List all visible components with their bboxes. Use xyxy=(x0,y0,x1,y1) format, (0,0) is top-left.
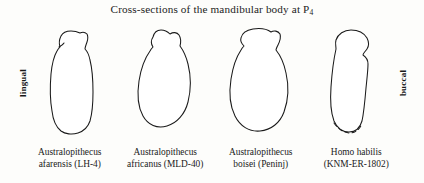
caption-habilis: Homo habilis (KNM-ER-1802) xyxy=(309,146,405,171)
specimen-boisei xyxy=(215,24,303,144)
caption-species-afarensis: afarensis (LH-4) xyxy=(22,158,118,170)
caption-species-africanus: africanus (MLD-40) xyxy=(118,158,214,170)
orientation-label-lingual: lingual xyxy=(18,56,28,110)
caption-species-boisei: boisei (Peninj) xyxy=(213,158,309,170)
cross-section-drawing-afarensis xyxy=(30,24,118,144)
caption-genus-boisei: Australopithecus xyxy=(213,146,309,158)
specimen-habilis xyxy=(308,24,396,144)
caption-genus-africanus: Australopithecus xyxy=(118,146,214,158)
cross-section-drawing-habilis xyxy=(308,24,396,144)
figure-title-text: Cross-sections of the mandibular body at… xyxy=(111,3,310,15)
caption-boisei: Australopithecus boisei (Peninj) xyxy=(213,146,309,171)
figure-title-subscript: 4 xyxy=(310,8,314,17)
specimen-row xyxy=(30,24,396,144)
caption-afarensis: Australopithecus afarensis (LH-4) xyxy=(22,146,118,171)
cross-section-drawing-boisei xyxy=(215,24,303,144)
caption-row: Australopithecus afarensis (LH-4) Austra… xyxy=(22,146,404,171)
cross-section-drawing-africanus xyxy=(123,24,211,144)
specimen-africanus xyxy=(123,24,211,144)
caption-genus-habilis: Homo habilis xyxy=(309,146,405,158)
caption-species-habilis: (KNM-ER-1802) xyxy=(309,158,405,170)
specimen-afarensis xyxy=(30,24,118,144)
caption-genus-afarensis: Australopithecus xyxy=(22,146,118,158)
orientation-label-buccal: buccal xyxy=(398,56,408,110)
figure-root: Cross-sections of the mandibular body at… xyxy=(0,0,424,183)
caption-africanus: Australopithecus africanus (MLD-40) xyxy=(118,146,214,171)
figure-title: Cross-sections of the mandibular body at… xyxy=(0,3,424,17)
